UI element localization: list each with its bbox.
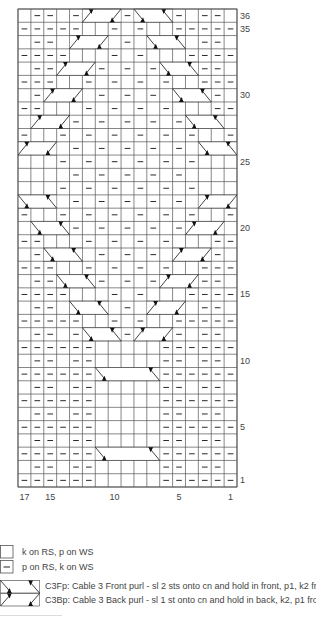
c3fp-cable-icon <box>82 328 121 341</box>
key-knit-label: k on RS, p on WS <box>22 546 94 558</box>
c3fp-cable-icon <box>160 62 199 75</box>
key-c3fp-label: C3Fp: Cable 3 Front purl - sl 2 sts onto… <box>45 580 316 592</box>
key-purl-label: p on RS, k on WS <box>22 561 94 573</box>
c3fp-cable-icon <box>95 368 159 381</box>
c3bp-cable-icon <box>160 275 199 288</box>
c3fp-cable-icon <box>0 580 42 594</box>
c3fp-cable-icon <box>18 195 57 208</box>
c3fp-cable-icon <box>1 581 40 594</box>
c3fp-cable-icon <box>147 36 186 49</box>
row-label-30: 30 <box>240 90 250 100</box>
c3fp-cable-icon <box>173 89 212 102</box>
c3fp-cable-icon <box>95 447 159 460</box>
stitch-label-1: 1 <box>228 492 233 502</box>
c3bp-cable-icon <box>18 142 57 155</box>
stitch-label-15: 15 <box>45 492 55 502</box>
c3fp-cable-icon <box>134 9 173 22</box>
c3fp-cable-icon <box>185 115 224 128</box>
row-label-15: 15 <box>240 289 250 299</box>
row-label-5: 5 <box>240 422 245 432</box>
row-label-20: 20 <box>240 223 250 233</box>
c3bp-cable-icon <box>44 89 83 102</box>
row-label-25: 25 <box>240 157 250 167</box>
c3fp-cable-icon <box>31 221 70 234</box>
row-label-1: 1 <box>240 475 245 485</box>
key-c3bp-label: C3Bp: Cable 3 Back purl - sl 1 st onto c… <box>45 594 316 606</box>
key-divider <box>0 615 62 616</box>
c3fp-cable-icon <box>44 248 83 261</box>
c3fp-cable-icon <box>198 142 237 155</box>
row-label-36: 36 <box>240 11 250 21</box>
row-label-35: 35 <box>240 24 250 34</box>
c3bp-cable-icon <box>57 62 96 75</box>
c3bp-cable-icon <box>173 248 212 261</box>
c3bp-cable-icon <box>134 328 173 341</box>
c3bp-cable-icon <box>82 9 121 22</box>
knit-square-icon <box>0 545 14 559</box>
c3fp-cable-icon <box>57 275 96 288</box>
c3fp-cable-icon <box>70 301 109 314</box>
c3bp-cable-icon <box>31 115 70 128</box>
row-label-10: 10 <box>240 356 250 366</box>
stitch-label-10: 10 <box>110 492 120 502</box>
c3bp-cable-icon <box>70 36 109 49</box>
purl-dash-icon <box>0 560 14 574</box>
c3bp-cable-icon <box>185 221 224 234</box>
c3bp-cable-icon <box>1 594 40 607</box>
stitch-label-17: 17 <box>19 492 29 502</box>
stitch-label-5: 5 <box>177 492 182 502</box>
c3bp-cable-icon <box>198 195 237 208</box>
c3bp-cable-icon <box>147 301 186 314</box>
c3bp-cable-icon <box>0 593 42 607</box>
knitting-chart <box>18 9 237 487</box>
chart-grid <box>18 9 237 487</box>
